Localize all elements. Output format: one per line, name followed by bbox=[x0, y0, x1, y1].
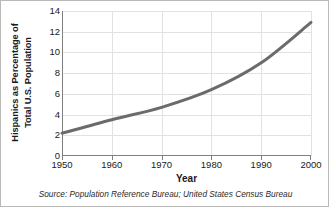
y-tick-label: 14 bbox=[41, 6, 60, 16]
x-tick-label: 1960 bbox=[101, 159, 122, 170]
y-tick-label: 6 bbox=[41, 89, 60, 99]
y-tick-label: 4 bbox=[41, 110, 60, 120]
plot-area bbox=[62, 11, 311, 156]
x-tick-label: 1980 bbox=[201, 159, 222, 170]
x-axis-title: Year bbox=[62, 173, 311, 184]
gridline-x bbox=[311, 11, 312, 156]
y-tick-label: 2 bbox=[41, 130, 60, 140]
x-tick-label: 1990 bbox=[251, 159, 272, 170]
y-axis-title-line2: Total U.S. Population bbox=[21, 23, 34, 141]
y-axis-title-text: Hispanics as Percentage of Total U.S. Po… bbox=[9, 23, 34, 141]
x-tick-label: 1970 bbox=[151, 159, 172, 170]
x-tick-label: 1950 bbox=[51, 159, 72, 170]
y-axis-title: Hispanics as Percentage of Total U.S. Po… bbox=[1, 1, 41, 163]
source-note: Source: Population Reference Bureau; Uni… bbox=[1, 189, 329, 199]
y-axis-title-line1: Hispanics as Percentage of bbox=[10, 23, 20, 141]
y-tick-label: 8 bbox=[41, 68, 60, 78]
x-axis-tick-labels: 195019601970198019902000 bbox=[62, 159, 311, 172]
y-axis-tick-labels: 02468101214 bbox=[41, 1, 60, 163]
hispanic-percentage-line bbox=[62, 22, 311, 133]
chart-figure: Hispanics as Percentage of Total U.S. Po… bbox=[0, 0, 329, 207]
data-series-line bbox=[62, 11, 311, 156]
x-tick-label: 2000 bbox=[300, 159, 321, 170]
y-tick-label: 12 bbox=[41, 27, 60, 37]
y-tick-label: 10 bbox=[41, 47, 60, 57]
